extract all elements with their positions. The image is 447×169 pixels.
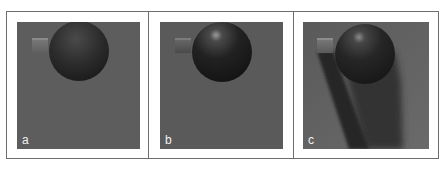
sphere-icon — [49, 22, 109, 81]
render-image-a: a — [17, 22, 140, 149]
sphere-icon — [335, 24, 395, 84]
scene-a-graphic — [17, 22, 140, 149]
sphere-icon — [192, 22, 252, 82]
cube-icon — [32, 38, 48, 53]
scene-c-graphic — [303, 22, 429, 149]
panel-a: a — [7, 12, 149, 158]
scene-b-graphic — [160, 22, 283, 149]
panel-label-a: a — [22, 134, 29, 146]
figure-frame: a — [6, 11, 439, 159]
render-image-c: c — [303, 22, 429, 149]
panel-c: c — [294, 12, 438, 158]
cube-icon — [175, 38, 191, 53]
cube-icon — [317, 38, 333, 53]
panel-label-b: b — [165, 134, 172, 146]
panel-label-c: c — [308, 134, 314, 146]
render-image-b: b — [160, 22, 283, 149]
panel-b: b — [149, 12, 294, 158]
